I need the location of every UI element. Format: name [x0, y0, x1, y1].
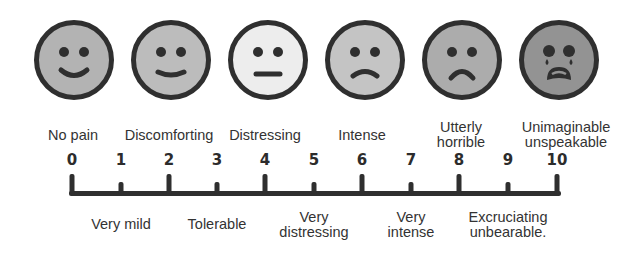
- bottom-label-very-intense: Very intense: [388, 210, 435, 240]
- bottom-label-very-distressing: Very distressing: [279, 210, 348, 240]
- slight-smile-face-icon: [131, 20, 211, 100]
- scale-number-9: 9: [503, 151, 513, 169]
- scale-number-7: 7: [406, 151, 416, 169]
- scale-number-2: 2: [164, 151, 174, 169]
- neutral-face-icon: [228, 20, 308, 100]
- tick-10: [555, 174, 560, 194]
- scale-number-4: 4: [260, 151, 270, 169]
- slight-frown-face-icon: [325, 20, 405, 100]
- top-label-no-pain: No pain: [48, 128, 98, 143]
- tick-2: [167, 174, 172, 194]
- scale-number-8: 8: [454, 151, 464, 169]
- tick-9: [506, 182, 511, 194]
- tick-0: [70, 174, 75, 194]
- scale-number-3: 3: [212, 151, 222, 169]
- tick-5: [312, 182, 317, 194]
- crying-face-icon: [519, 20, 599, 100]
- bottom-label-excruciating: Excruciating unbearable.: [469, 210, 548, 240]
- smiling-face-icon: [34, 20, 114, 100]
- tick-3: [215, 182, 220, 194]
- scale-number-5: 5: [309, 151, 319, 169]
- top-label-utterly-horrible: Utterly horrible: [437, 120, 485, 150]
- tick-6: [360, 174, 365, 194]
- scale-number-1: 1: [116, 151, 126, 169]
- bottom-label-very-mild: Very mild: [91, 217, 151, 232]
- top-label-discomforting: Discomforting: [125, 128, 214, 143]
- tick-1: [119, 182, 124, 194]
- top-label-distressing: Distressing: [229, 128, 301, 143]
- top-label-intense: Intense: [338, 128, 386, 143]
- top-label-unimaginable: Unimaginable unspeakable: [522, 120, 611, 150]
- tick-8: [457, 174, 462, 194]
- scale-number-0: 0: [67, 151, 77, 169]
- tick-4: [263, 174, 268, 194]
- tick-7: [409, 182, 414, 194]
- scale-number-6: 6: [357, 151, 367, 169]
- bottom-label-tolerable: Tolerable: [188, 217, 247, 232]
- frowning-face-icon: [422, 20, 502, 100]
- scale-number-10: 10: [547, 151, 568, 169]
